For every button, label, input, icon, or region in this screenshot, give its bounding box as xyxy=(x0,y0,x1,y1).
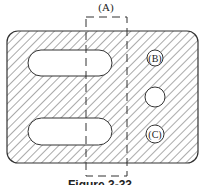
hole-middle xyxy=(145,87,165,107)
plate-drawing-svg: (B) (C) xyxy=(0,0,200,185)
label-b: (B) xyxy=(148,53,161,65)
label-c: (C) xyxy=(148,129,161,141)
section-label-a: (A) xyxy=(94,1,118,13)
upper-slot xyxy=(28,50,112,76)
figure-caption: Figure 3-33 xyxy=(0,178,200,185)
technical-drawing: (B) (C) (A) Figure 3-33 xyxy=(0,0,200,185)
lower-slot xyxy=(28,118,112,145)
